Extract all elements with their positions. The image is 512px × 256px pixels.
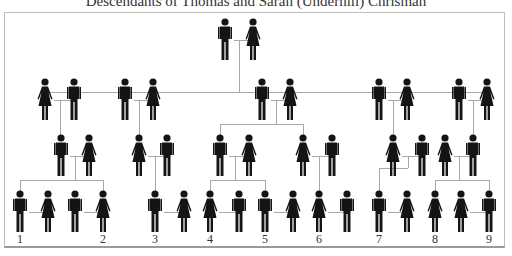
- male-person-icon: [464, 134, 482, 178]
- male-person-icon: [370, 190, 388, 234]
- female-person-icon: [384, 134, 402, 178]
- male-person-icon: [323, 134, 341, 178]
- male-person-icon: [158, 134, 176, 178]
- male-person-icon: [370, 78, 388, 122]
- female-person-icon: [452, 190, 470, 234]
- connector-line: [435, 180, 489, 181]
- connector-line: [75, 156, 76, 180]
- female-person-icon: [39, 190, 57, 234]
- descendant-number-label: 8: [427, 232, 443, 247]
- male-person-icon: [413, 134, 431, 178]
- female-person-icon: [36, 78, 54, 122]
- male-person-icon: [11, 190, 29, 234]
- female-person-icon: [281, 78, 299, 122]
- connector-line: [319, 156, 320, 192]
- descendant-number-label: 7: [371, 232, 387, 247]
- male-person-icon: [216, 18, 234, 62]
- female-person-icon: [398, 78, 416, 122]
- female-person-icon: [310, 190, 328, 234]
- descendant-number-label: 5: [257, 232, 273, 247]
- male-person-icon: [253, 78, 271, 122]
- male-person-icon: [66, 190, 84, 234]
- male-person-icon: [65, 78, 83, 122]
- female-person-icon: [240, 134, 258, 178]
- connector-line: [473, 100, 474, 136]
- male-person-icon: [256, 190, 274, 234]
- connector-line: [139, 100, 140, 136]
- male-person-icon: [52, 134, 70, 178]
- connector-line: [155, 156, 156, 192]
- descendant-number-label: 3: [147, 232, 163, 247]
- female-person-icon: [201, 190, 219, 234]
- male-person-icon: [338, 190, 356, 234]
- descendant-number-label: 9: [481, 232, 497, 247]
- connector-line: [60, 100, 61, 136]
- female-person-icon: [426, 190, 444, 234]
- male-person-icon: [480, 190, 498, 234]
- female-person-icon: [244, 18, 262, 62]
- female-person-icon: [398, 190, 416, 234]
- descendant-number-label: 1: [12, 232, 28, 247]
- descendant-number-label: 6: [311, 232, 327, 247]
- female-person-icon: [130, 134, 148, 178]
- female-person-icon: [478, 78, 496, 122]
- female-person-icon: [436, 134, 454, 178]
- male-person-icon: [450, 78, 468, 122]
- connector-line: [210, 180, 265, 181]
- female-person-icon: [144, 78, 162, 122]
- connector-line: [276, 100, 277, 124]
- connector-line: [239, 40, 240, 92]
- male-person-icon: [211, 134, 229, 178]
- male-person-icon: [230, 190, 248, 234]
- connector-line: [20, 180, 103, 181]
- connector-line: [459, 156, 460, 180]
- diagram-title: Descendants of Thomas and Sarah (Underhi…: [0, 0, 512, 10]
- male-person-icon: [116, 78, 134, 122]
- descendant-number-label: 4: [202, 232, 218, 247]
- female-person-icon: [175, 190, 193, 234]
- connector-line: [408, 156, 409, 168]
- male-person-icon: [146, 190, 164, 234]
- connector-line: [379, 168, 380, 192]
- connector-line: [220, 124, 303, 125]
- female-person-icon: [80, 134, 98, 178]
- descendant-number-label: 2: [95, 232, 111, 247]
- female-person-icon: [284, 190, 302, 234]
- connector-line: [235, 156, 236, 180]
- connector-line: [393, 100, 394, 136]
- female-person-icon: [294, 134, 312, 178]
- female-person-icon: [94, 190, 112, 234]
